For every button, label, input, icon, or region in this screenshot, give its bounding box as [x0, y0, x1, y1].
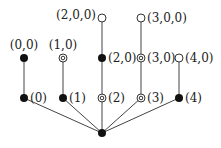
node-label: (3,0)	[147, 51, 175, 65]
node-label: (0,0)	[10, 38, 38, 52]
filled-dot-icon	[98, 54, 106, 62]
node-label: (3)	[147, 91, 164, 105]
tree-node	[98, 14, 106, 22]
tree-node	[175, 94, 183, 102]
filled-dot-icon	[20, 54, 28, 62]
tree-node	[98, 54, 106, 62]
tree-node	[59, 94, 67, 102]
node-label: (0)	[30, 91, 47, 105]
tree-node	[137, 94, 145, 102]
tree-node	[175, 54, 183, 62]
filled-dot-icon	[59, 94, 67, 102]
edges	[24, 18, 179, 133]
tree-node	[20, 94, 28, 102]
filled-dot-icon	[175, 94, 183, 102]
node-label: (2)	[108, 91, 125, 105]
tree-node	[137, 54, 145, 62]
node-label: (4)	[185, 91, 202, 105]
node-label: (1,0)	[49, 38, 77, 52]
tree-node	[59, 54, 67, 62]
node-label: (3,0,0)	[147, 11, 187, 25]
open-circle-icon	[175, 54, 183, 62]
open-circle-icon	[137, 14, 145, 22]
node-label: (2,0,0)	[56, 8, 96, 22]
tree-diagram: (0)(1)(2)(3)(4)(0,0)(1,0)(2,0)(3,0)(4,0)…	[0, 0, 221, 148]
filled-dot-icon	[20, 94, 28, 102]
root-node	[98, 129, 106, 137]
node-label: (2,0)	[108, 51, 136, 65]
node-label: (4,0)	[185, 51, 213, 65]
filled-dot-icon	[98, 129, 106, 137]
tree-node	[98, 94, 106, 102]
tree-node	[137, 14, 145, 22]
tree-node	[20, 54, 28, 62]
open-circle-icon	[98, 14, 106, 22]
node-label: (1)	[69, 91, 86, 105]
